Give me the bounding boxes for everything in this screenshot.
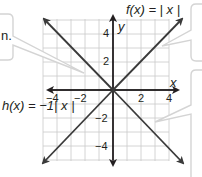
x-tick-neg2: −2 <box>74 93 87 104</box>
callout-right-bottom <box>155 70 202 177</box>
y-tick-neg2: −2 <box>95 113 108 124</box>
graph-figure: n. f(x) = | x | h(x) = −1| x | y x 4 2 −… <box>0 0 202 177</box>
h-function-label: h(x) = −1| x | <box>2 99 75 112</box>
y-axis-label: y <box>118 20 125 33</box>
x-tick-2: 2 <box>138 93 144 104</box>
x-tick-neg4: −4 <box>46 93 59 104</box>
y-tick-2: 2 <box>103 56 109 67</box>
y-tick-neg4: −4 <box>95 141 108 152</box>
x-axis-label: x <box>170 76 177 89</box>
x-tick-4: 4 <box>166 93 172 104</box>
callout-left-text: n. <box>1 29 12 42</box>
f-function-label: f(x) = | x | <box>126 3 180 16</box>
y-tick-4: 4 <box>103 28 109 39</box>
h-line-right <box>113 90 183 163</box>
f-function-label-text: f(x) = | x | <box>126 2 180 17</box>
